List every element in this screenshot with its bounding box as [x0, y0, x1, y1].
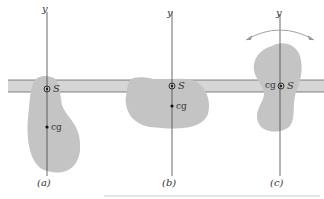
panel-a: y S cg (a)	[28, 3, 81, 188]
cg-label-a: cg	[51, 122, 62, 132]
y-axis-label-b: y	[166, 7, 173, 18]
cg-label-b: cg	[176, 101, 187, 111]
caption-c: (c)	[270, 177, 284, 188]
panel-b: y S cg (b)	[126, 7, 209, 188]
y-axis-label-c: y	[275, 7, 282, 18]
pivot-label-b: S	[178, 80, 185, 91]
cg-point-a	[45, 125, 48, 128]
panel-c: y S cg (c)	[246, 7, 314, 188]
caption-b: (b)	[162, 177, 176, 188]
cg-point-b	[170, 104, 173, 107]
pivot-label-a: S	[53, 83, 60, 94]
pivot-label-c: S	[287, 80, 294, 91]
cg-label-c: cg	[265, 80, 276, 90]
y-axis-label-a: y	[41, 3, 48, 14]
diagram: y S cg (a) y S cg (b) y S cg (c)	[0, 0, 324, 199]
caption-a: (a)	[37, 177, 51, 188]
body-shape-b	[126, 77, 209, 128]
